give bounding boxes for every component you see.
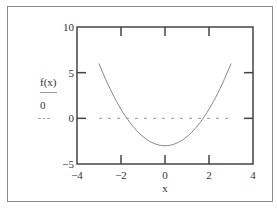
x-tick-label: 4 (250, 169, 256, 181)
tick-labels: −4−20241050−5 (62, 21, 256, 181)
axis-ticks (77, 27, 253, 164)
y-tick-label: 0 (69, 112, 75, 124)
y-tick-label: 10 (63, 21, 75, 33)
y-tick-label: −5 (62, 158, 74, 170)
plot-area-frame (77, 27, 253, 164)
trace-f-of-x (99, 64, 231, 146)
x-axis-label: x (162, 182, 168, 194)
chart-canvas: −4−20241050−5 x (0, 0, 277, 208)
x-tick-label: −2 (115, 169, 127, 181)
traces (99, 64, 231, 146)
y-tick-label: 5 (69, 67, 75, 79)
x-tick-label: 0 (162, 169, 168, 181)
x-tick-label: −4 (71, 169, 83, 181)
x-tick-label: 2 (206, 169, 212, 181)
